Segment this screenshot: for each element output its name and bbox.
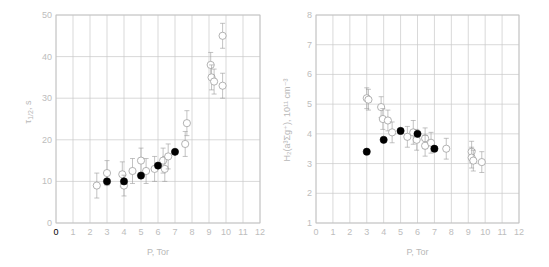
filled-circle-marker (120, 178, 127, 185)
x-tick-label: 12 (255, 227, 265, 237)
x-tick-label: 10 (480, 227, 490, 237)
x-tick-label: 7 (432, 227, 437, 237)
x-tick-label: 0 (313, 227, 318, 237)
figure: 012345678910111201020304050P, Torτ1/2, s… (0, 0, 549, 267)
x-tick-label: 4 (381, 227, 386, 237)
open-circle-marker (183, 120, 190, 127)
x-tick-label: 1 (70, 227, 75, 237)
x-tick-label: 2 (347, 227, 352, 237)
x-tick-label: 11 (497, 227, 506, 237)
filled-circle-marker (431, 145, 438, 152)
open-circle-marker (443, 145, 450, 152)
open-circle-marker (182, 140, 189, 147)
open-circle-marker (129, 167, 136, 174)
open-circle-marker (119, 171, 126, 178)
x-tick-label: 8 (449, 227, 454, 237)
open-circle-marker (211, 78, 218, 85)
x-tick-label: 6 (415, 227, 420, 237)
filled-circle-marker (171, 148, 178, 155)
y-tick-label: 6 (307, 69, 312, 79)
x-tick-label: 1 (330, 227, 335, 237)
open-circle-marker (389, 129, 396, 136)
open-circle-marker (165, 153, 172, 160)
y-tick-label: 30 (42, 93, 52, 103)
filled-circle-marker (397, 127, 404, 134)
x-tick-label: 9 (466, 227, 471, 237)
x-tick-label: 3 (104, 227, 109, 237)
x-axis-label: P, Tor (406, 247, 428, 257)
y-tick-label: 3 (307, 159, 312, 169)
filled-circle-marker (137, 172, 144, 179)
x-tick-label: 6 (155, 227, 160, 237)
y-tick-label: 5 (307, 99, 312, 109)
x-tick-label: 12 (514, 227, 524, 237)
series-open (93, 23, 226, 198)
y-tick-label: 8 (307, 10, 312, 20)
y-tick-label: 20 (42, 135, 52, 145)
filled-circle-marker (414, 130, 421, 137)
y-tick-label: 10 (42, 176, 52, 186)
y-tick-label: 7 (307, 40, 312, 50)
x-tick-label: 9 (206, 227, 211, 237)
x-tick-label: 5 (138, 227, 143, 237)
y-tick-label: 50 (42, 10, 52, 20)
open-circle-marker (137, 157, 144, 164)
open-circle-marker (478, 158, 485, 165)
y-tick-label: 1 (307, 218, 312, 228)
y-tick-label: 0 (47, 218, 52, 228)
x-tick-label: 0 (53, 227, 58, 237)
x-axis-label: P, Tor (147, 247, 169, 257)
filled-circle-marker (103, 178, 110, 185)
x-tick-label: 10 (221, 227, 231, 237)
y-tick-label: 40 (42, 52, 52, 62)
left-chart: 012345678910111201020304050P, Torτ1/2, s (23, 10, 265, 257)
open-circle-marker (93, 182, 100, 189)
series-open (363, 88, 485, 173)
filled-circle-marker (154, 162, 161, 169)
open-circle-marker (219, 32, 226, 39)
x-tick-label: 2 (87, 227, 92, 237)
grid (56, 15, 260, 223)
x-tick-label: 4 (121, 227, 126, 237)
x-tick-label: 5 (398, 227, 403, 237)
y-tick-label: 4 (307, 129, 312, 139)
x-tick-label: 3 (364, 227, 369, 237)
x-tick-label: 11 (238, 227, 247, 237)
x-tick-label: 7 (172, 227, 177, 237)
open-circle-marker (365, 96, 372, 103)
y-tick-label: 2 (307, 188, 312, 198)
filled-circle-marker (363, 148, 370, 155)
open-circle-marker (103, 169, 110, 176)
open-circle-marker (219, 82, 226, 89)
y-axis-label: H₂(a³Σg⁺), 10¹¹ cm⁻³ (282, 78, 292, 161)
open-circle-marker (384, 117, 391, 124)
filled-circle-marker (380, 136, 387, 143)
open-circle-marker (378, 104, 385, 111)
x-tick-label: 8 (189, 227, 194, 237)
right-chart: 012345678910111212345678P, TorH₂(a³Σg⁺),… (282, 10, 524, 257)
grid (316, 15, 519, 223)
y-axis-label: τ1/2, s (23, 100, 34, 123)
open-circle-marker (470, 157, 477, 164)
